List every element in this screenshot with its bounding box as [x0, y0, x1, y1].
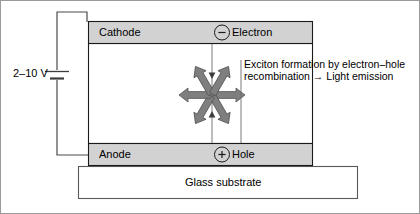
- cathode-label: Cathode: [99, 26, 141, 39]
- hole-badge: [215, 147, 230, 162]
- anode-label: Anode: [99, 148, 131, 161]
- recombination-annotation: Exciton formation by electron–hole recom…: [244, 58, 405, 83]
- wire-top: [57, 12, 87, 70]
- wire-bottom: [57, 80, 88, 155]
- glass-substrate-label: Glass substrate: [185, 176, 261, 189]
- annotation-line-1: Exciton formation by electron–hole: [244, 58, 405, 70]
- battery-symbol: [45, 72, 69, 79]
- circuit-wiring: [57, 12, 88, 155]
- hole-label: Hole: [232, 148, 255, 161]
- electron-label: Electron: [232, 26, 272, 39]
- electron-badge: [215, 25, 230, 40]
- diagram-canvas: Cathode Electron Anode Hole Glass substr…: [0, 0, 420, 214]
- voltage-label: 2–10 V: [13, 67, 48, 80]
- annotation-line-2: recombination → Light emission: [244, 70, 405, 82]
